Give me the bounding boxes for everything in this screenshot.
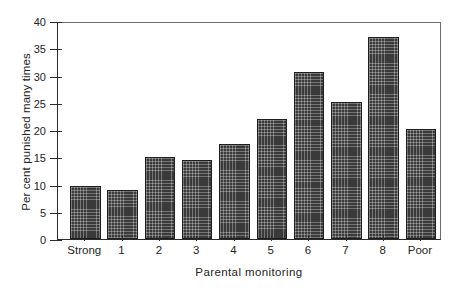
x-axis-tick-label: 1: [103, 244, 140, 256]
bar: [145, 157, 176, 239]
y-axis-tick-label: 30: [34, 71, 46, 84]
y-axis-tick-inner: [58, 186, 62, 187]
x-axis-tick: [122, 236, 123, 241]
y-axis-tick-label: 5: [40, 207, 46, 220]
bar: [257, 119, 288, 239]
y-axis-tick-inner: [58, 77, 62, 78]
y-axis-tick-label: 10: [34, 180, 46, 193]
y-axis-tick: 0: [50, 240, 58, 241]
x-axis-tick: [84, 236, 85, 241]
bar: [294, 72, 325, 239]
x-axis-tick-label: 2: [140, 244, 177, 256]
y-axis-tick: 20: [50, 131, 58, 132]
y-axis-title: Per cent punished many times: [20, 28, 32, 236]
y-axis-tick: 25: [50, 104, 58, 105]
y-axis-tick: 10: [50, 186, 58, 187]
x-axis-tick-label: 6: [289, 244, 326, 256]
x-axis-tick: [346, 236, 347, 241]
x-axis-tick: [308, 236, 309, 241]
bar: [182, 160, 213, 239]
plot-area: 0510152025303540: [57, 22, 441, 240]
y-axis-tick-label: 15: [34, 152, 46, 165]
bar: [368, 37, 399, 239]
bar: [406, 129, 437, 239]
bar: [219, 144, 250, 239]
x-axis-tick-label: 7: [327, 244, 364, 256]
x-axis-tick-label: 8: [364, 244, 401, 256]
x-axis-tick-label: 5: [252, 244, 289, 256]
y-axis-tick-label: 0: [40, 234, 46, 247]
x-axis-tick: [234, 236, 235, 241]
y-axis-tick-label: 25: [34, 98, 46, 111]
x-axis-tick: [383, 236, 384, 241]
x-axis-tick-label: Poor: [401, 244, 438, 256]
y-axis-tick-label: 35: [34, 43, 46, 56]
y-axis-tick: 30: [50, 77, 58, 78]
y-axis-tick-inner: [58, 240, 62, 241]
x-axis-tick: [159, 236, 160, 241]
y-axis-tick: 5: [50, 213, 58, 214]
y-axis-tick-inner: [58, 22, 62, 23]
bar: [107, 190, 138, 239]
bar-chart-figure: Per cent punished many times 05101520253…: [0, 0, 459, 299]
x-axis-tick: [196, 236, 197, 241]
y-axis-tick: 40: [50, 22, 58, 23]
bar: [331, 102, 362, 239]
y-axis-tick: 15: [50, 158, 58, 159]
y-axis-tick-inner: [58, 49, 62, 50]
y-axis-tick-inner: [58, 104, 62, 105]
y-axis-tick-inner: [58, 131, 62, 132]
y-axis-tick-inner: [58, 158, 62, 159]
x-axis-tick-label: 3: [178, 244, 215, 256]
x-axis-tick-label: Strong: [66, 244, 103, 256]
x-axis-title: Parental monitoring: [57, 266, 441, 278]
y-axis-tick-label: 40: [34, 16, 46, 29]
y-axis-tick: 35: [50, 49, 58, 50]
x-axis-tick: [420, 236, 421, 241]
x-axis-tick-label: 4: [215, 244, 252, 256]
y-axis-tick-inner: [58, 213, 62, 214]
x-axis-tick: [271, 236, 272, 241]
bar: [70, 186, 101, 239]
y-axis-tick-label: 20: [34, 125, 46, 138]
